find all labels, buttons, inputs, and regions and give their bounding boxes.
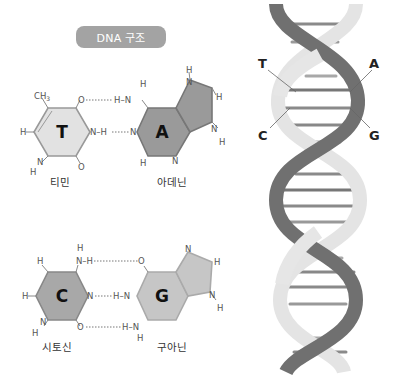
svg-text:O: O [78, 95, 85, 105]
svg-text:N: N [40, 317, 46, 327]
n-label: N–H [90, 127, 107, 137]
cytosine-letter: C [56, 286, 68, 306]
svg-text:N: N [186, 77, 192, 87]
double-helix: T A C G [258, 4, 380, 372]
svg-text:H: H [77, 243, 83, 253]
svg-text:O: O [138, 256, 145, 266]
svg-text:H: H [216, 92, 222, 102]
thymine-letter: T [56, 122, 68, 142]
thymine-molecule: T CH3 O H N–H O N H 티민 [20, 91, 107, 188]
helix-label-t: T [258, 56, 267, 71]
svg-text:H: H [219, 137, 225, 147]
svg-text:N: N [87, 291, 93, 301]
svg-text:H: H [140, 158, 146, 168]
svg-text:H–N: H–N [122, 322, 139, 332]
ch3-label: CH3 [34, 91, 50, 102]
svg-text:H: H [186, 65, 192, 75]
svg-text:N–H: N–H [76, 256, 93, 266]
svg-text:H: H [30, 167, 36, 177]
adenine-name: 아데닌 [157, 176, 187, 188]
svg-text:H: H [20, 127, 26, 137]
thymine-name: 티민 [50, 176, 70, 188]
svg-text:N: N [185, 244, 191, 254]
cytosine-molecule: C H H N–H H N O N H 시토신 [22, 243, 93, 353]
hydrogen-bonds-cg: O H–N H–N H [86, 256, 145, 343]
svg-text:H: H [217, 303, 223, 313]
guanine-name: 구아닌 [157, 341, 187, 353]
cytosine-name: 시토신 [42, 341, 72, 353]
svg-text:H: H [22, 291, 28, 301]
svg-text:H: H [140, 79, 146, 89]
adenine-molecule: A H H N H N H H N 아데닌 [137, 65, 225, 188]
svg-text:H: H [137, 333, 143, 343]
svg-text:N: N [209, 290, 215, 300]
svg-text:O: O [78, 162, 85, 172]
svg-text:H–N: H–N [113, 291, 130, 301]
helix-label-c: C [258, 128, 268, 143]
svg-text:H–N: H–N [114, 95, 131, 105]
svg-text:N: N [130, 127, 136, 137]
svg-text:H: H [214, 257, 220, 267]
svg-text:H: H [37, 256, 43, 266]
svg-text:N: N [211, 124, 217, 134]
helix-label-a: A [369, 56, 379, 71]
svg-text:H: H [32, 328, 38, 338]
svg-text:N: N [37, 157, 43, 167]
svg-text:O: O [77, 322, 84, 332]
guanine-letter: G [155, 286, 169, 306]
svg-text:N: N [172, 156, 178, 166]
dna-diagram: T CH3 O H N–H O N H 티민 H–N N A H H N H N… [0, 0, 398, 390]
helix-label-g: G [369, 128, 380, 143]
guanine-molecule: G N H N H 구아닌 [137, 244, 223, 353]
adenine-letter: A [155, 122, 169, 142]
